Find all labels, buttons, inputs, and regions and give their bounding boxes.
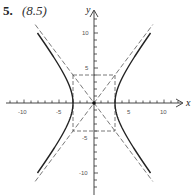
y-tick-label: 10 [82,30,89,36]
x-tick-label: -10 [18,109,27,115]
x-tick-label: 10 [160,109,167,115]
hyperbola-plot: x y -10 -5 5 10 10 5 -5 -10 [0,0,194,195]
y-tick-label: -10 [79,170,88,176]
x-tick-label: 5 [127,109,131,115]
x-tick-label: -5 [56,109,62,115]
origin-point [92,101,96,105]
x-axis-label: x [185,97,191,108]
y-axis-label: y [85,4,91,15]
x-axis: x [6,97,191,108]
y-tick-label: 5 [85,65,89,71]
y-tick-label: -5 [82,135,88,141]
